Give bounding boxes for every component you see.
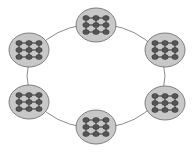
grid-node-dot [83,118,89,123]
grid-node-dot [26,48,32,53]
grid-node-dot [26,93,32,98]
grid-node-dot [152,48,158,53]
grid-node-dot [83,30,89,35]
grid-node-dot [36,100,42,105]
grid-node-dot [103,132,109,137]
grid-node-dot [16,48,22,53]
grid-node-dot [93,125,99,130]
grid-node-dot [83,16,89,21]
grid-node-dot [162,108,168,113]
grid-node-dot [83,125,89,130]
grid-node-dot [26,55,32,60]
grid-node-dot [162,55,168,60]
grid-node-dot [172,41,178,46]
grid-node-dot [36,55,42,60]
grid-node-dot [152,94,158,99]
grid-node-dot [83,132,89,137]
cluster-nodes [9,8,185,144]
grid-node-dot [36,41,42,46]
grid-node-dot [103,30,109,35]
grid-node-dot [103,118,109,123]
grid-node-dot [152,55,158,60]
grid-node-dot [93,30,99,35]
grid-node-dot [16,93,22,98]
grid-node-dot [162,48,168,53]
grid-node-dot [26,100,32,105]
grid-node-dot [172,108,178,113]
grid-node-dot [93,16,99,21]
grid-node-dot [16,100,22,105]
grid-node-dot [93,132,99,137]
grid-node-dot [152,108,158,113]
grid-node-dot [26,107,32,112]
cluster-upper-right [145,33,185,67]
grid-node-dot [172,48,178,53]
grid-node-dot [103,23,109,28]
grid-node-dot [172,55,178,60]
grid-node-dot [152,41,158,46]
grid-node-dot [36,48,42,53]
cluster-top [76,8,116,42]
grid-node-dot [16,41,22,46]
cluster-lower-right [145,86,185,120]
grid-node-dot [36,107,42,112]
grid-node-dot [16,55,22,60]
grid-node-dot [83,23,89,28]
grid-node-dot [26,41,32,46]
grid-node-dot [16,107,22,112]
grid-node-dot [172,101,178,106]
grid-node-dot [103,125,109,130]
grid-node-dot [172,94,178,99]
grid-node-dot [162,94,168,99]
grid-node-dot [162,41,168,46]
cluster-lower-left [9,85,49,119]
cluster-upper-left [9,33,49,67]
grid-node-dot [36,93,42,98]
ring-topology-diagram [0,0,193,159]
grid-node-dot [103,16,109,21]
grid-node-dot [93,118,99,123]
grid-node-dot [162,101,168,106]
cluster-bottom [76,110,116,144]
grid-node-dot [152,101,158,106]
grid-node-dot [93,23,99,28]
